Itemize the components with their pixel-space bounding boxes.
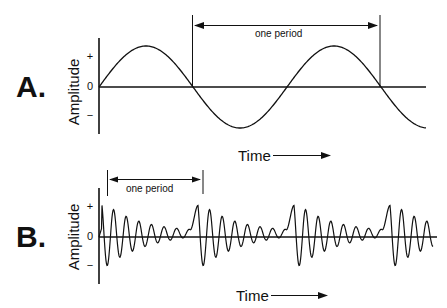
panel-a-time-arrow	[273, 152, 331, 159]
panel-a-tick-zero: 0	[84, 80, 96, 92]
panel-a-label: A.	[16, 72, 46, 102]
panel-b-tick-zero: 0	[84, 230, 96, 242]
panel-b-period-label: one period	[126, 183, 173, 194]
panel-b-axes	[99, 188, 437, 284]
panel-a-period-label: one period	[255, 28, 302, 39]
panel-b-label: B.	[16, 222, 46, 252]
panel-b-complex-wave	[99, 205, 433, 265]
panel-b-tick-plus: +	[84, 200, 96, 212]
panel-b-tick-minus: −	[84, 259, 96, 271]
panel-a-axes	[99, 38, 426, 134]
panel-b-y-axis-label: Amplitude	[65, 200, 83, 274]
panel-a-time-label: Time	[238, 147, 271, 164]
panel-a-tick-minus: −	[84, 109, 96, 121]
panel-b-time-arrow	[271, 292, 328, 299]
panel-a-period-bracket	[193, 15, 381, 87]
panel-a-y-axis-label: Amplitude	[65, 55, 83, 129]
panel-a-tick-plus: +	[84, 50, 96, 62]
panel-b-time-label: Time	[236, 287, 269, 304]
